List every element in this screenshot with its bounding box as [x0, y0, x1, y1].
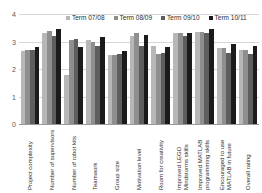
legend-label: Term 07/08	[72, 15, 105, 22]
legend-label: Term 10/11	[215, 15, 247, 22]
legend-swatch-icon	[114, 16, 118, 20]
x-label-cell: Improved LEGO Mindstorms skills	[172, 126, 194, 192]
legend-swatch-icon	[209, 16, 213, 20]
bar-group	[106, 14, 128, 124]
chart-legend: Term 07/08Term 08/09Term 09/10Term 10/11	[66, 15, 247, 22]
x-axis-category-label: Project complexity	[27, 126, 34, 190]
bar-group	[63, 14, 85, 124]
bar-group	[194, 14, 216, 124]
x-label-cell: Project complexity	[19, 126, 41, 192]
plot-area: 01234	[19, 14, 259, 124]
bar	[231, 44, 236, 124]
y-tick-label: 4	[12, 11, 16, 18]
x-label-cell: Improved MATLAB programming skills	[194, 126, 216, 192]
x-axis-labels: Project complexityNumber of supervisorsN…	[19, 126, 259, 192]
bar	[56, 29, 61, 124]
x-axis-category-label: Improved LEGO Mindstorms skills	[176, 126, 189, 190]
legend-label: Term 09/10	[167, 15, 200, 22]
legend-swatch-icon	[161, 16, 165, 20]
bar-chart: 01234 Term 07/08Term 08/09Term 09/10Term…	[0, 0, 262, 193]
bar-group	[128, 14, 150, 124]
bar	[122, 51, 127, 124]
x-axis-category-label: Overall rating	[245, 126, 252, 190]
bar	[253, 46, 258, 124]
legend-item[interactable]: Term 09/10	[161, 15, 200, 22]
y-tick-label: 1	[12, 93, 16, 100]
legend-swatch-icon	[66, 16, 70, 20]
bar	[209, 29, 214, 124]
bar-group	[41, 14, 63, 124]
bar-group	[150, 14, 172, 124]
bar	[144, 35, 149, 124]
bar	[100, 37, 105, 124]
bar-group	[84, 14, 106, 124]
bar-group	[172, 14, 194, 124]
x-label-cell: Teamwork	[84, 126, 106, 192]
bar-group	[19, 14, 41, 124]
x-label-cell: Room for creativity	[150, 126, 172, 192]
x-axis-category-label: Improved MATLAB programming skills	[198, 126, 211, 190]
x-label-cell: Encouraged to use MATLAB in future	[215, 126, 237, 192]
bar	[187, 33, 192, 124]
bar	[165, 47, 170, 124]
bar	[78, 47, 83, 124]
gridline-0: 0	[19, 124, 259, 125]
legend-label: Term 08/09	[120, 15, 153, 22]
bars-layer	[19, 14, 259, 124]
x-axis-category-label: Motivation level	[136, 126, 143, 190]
bar-group	[237, 14, 259, 124]
x-label-cell: Number of robot kits	[63, 126, 85, 192]
x-axis-category-label: Encouraged to use MATLAB in future	[220, 126, 233, 190]
x-label-cell: Number of supervisors	[41, 126, 63, 192]
x-label-cell: Motivation level	[128, 126, 150, 192]
legend-item[interactable]: Term 07/08	[66, 15, 105, 22]
bar	[35, 47, 40, 124]
x-axis-category-label: Number of supervisors	[48, 126, 55, 190]
legend-item[interactable]: Term 10/11	[209, 15, 247, 22]
y-tick-label: 2	[12, 66, 16, 73]
y-tick-label: 0	[12, 121, 16, 128]
bar-group	[215, 14, 237, 124]
x-axis-category-label: Teamwork	[92, 126, 99, 190]
x-label-cell: Overall rating	[237, 126, 259, 192]
x-axis-category-label: Number of robot kits	[70, 126, 77, 190]
x-label-cell: Group size	[106, 126, 128, 192]
y-tick-label: 3	[12, 38, 16, 45]
x-axis-category-label: Group size	[114, 126, 121, 190]
legend-item[interactable]: Term 08/09	[114, 15, 153, 22]
x-axis-category-label: Room for creativity	[157, 126, 164, 190]
